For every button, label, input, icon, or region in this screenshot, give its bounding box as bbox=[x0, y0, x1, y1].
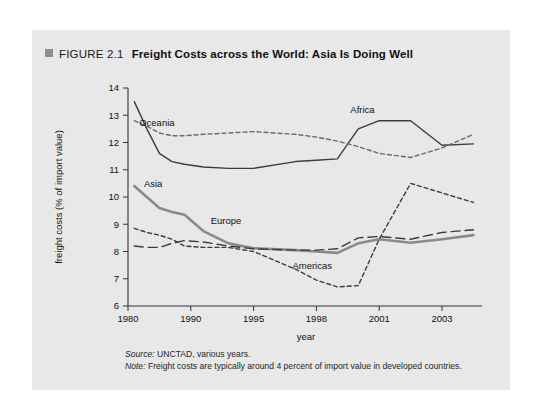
figure-card: FIGURE 2.1 Freight Costs across the Worl… bbox=[32, 30, 510, 390]
series-line-americas bbox=[134, 183, 473, 287]
series-line-africa bbox=[134, 102, 473, 169]
svg-text:2003: 2003 bbox=[431, 313, 452, 324]
figure-header: FIGURE 2.1 Freight Costs across the Worl… bbox=[45, 48, 413, 60]
note-text: Freight costs are typically around 4 per… bbox=[146, 361, 462, 371]
svg-text:1995: 1995 bbox=[243, 313, 264, 324]
series-line-oceania bbox=[134, 121, 473, 158]
chart-axes bbox=[128, 88, 482, 306]
series-inline-labels: AfricaOceaniaAsiaEuropeAmericas bbox=[139, 104, 375, 272]
svg-text:1980: 1980 bbox=[117, 313, 138, 324]
note-label: Note: bbox=[125, 361, 146, 371]
svg-text:10: 10 bbox=[108, 191, 119, 202]
note-line: Note: Freight costs are typically around… bbox=[125, 360, 505, 372]
svg-text:7: 7 bbox=[114, 273, 119, 284]
series-label-africa: Africa bbox=[350, 104, 375, 115]
svg-text:11: 11 bbox=[109, 164, 119, 175]
source-text: UNCTAD, various years. bbox=[155, 349, 251, 359]
svg-text:12: 12 bbox=[108, 137, 119, 148]
svg-text:6: 6 bbox=[114, 300, 119, 311]
series-label-europe: Europe bbox=[211, 215, 242, 226]
figure-title: Freight Costs across the World: Asia Is … bbox=[132, 48, 413, 60]
svg-text:1998: 1998 bbox=[306, 313, 327, 324]
x-axis-ticks: 198019901995199820012003 bbox=[117, 306, 452, 324]
y-axis-title: freight costs (% of import value) bbox=[53, 130, 64, 264]
svg-text:9: 9 bbox=[114, 219, 119, 230]
svg-text:1990: 1990 bbox=[180, 313, 201, 324]
svg-text:2001: 2001 bbox=[369, 313, 390, 324]
svg-text:13: 13 bbox=[108, 110, 119, 121]
source-line: Source: UNCTAD, various years. bbox=[125, 348, 505, 360]
freight-costs-line-chart: 67891011121314 198019901995199820012003 … bbox=[32, 74, 510, 344]
page-root: FIGURE 2.1 Freight Costs across the Worl… bbox=[0, 0, 540, 419]
series-label-americas: Americas bbox=[292, 260, 332, 271]
figure-notes: Source: UNCTAD, various years. Note: Fre… bbox=[125, 348, 505, 373]
x-axis-title: year bbox=[297, 331, 315, 342]
series-line-asia bbox=[134, 186, 473, 253]
y-axis-ticks: 67891011121314 bbox=[108, 82, 128, 311]
chart-plot-area: 67891011121314 198019901995199820012003 … bbox=[32, 74, 510, 344]
source-label: Source: bbox=[125, 349, 155, 359]
svg-text:8: 8 bbox=[114, 246, 119, 257]
svg-text:14: 14 bbox=[108, 82, 119, 93]
figure-label: FIGURE 2.1 bbox=[59, 48, 124, 60]
series-line-europe bbox=[134, 230, 473, 250]
series-label-asia: Asia bbox=[144, 178, 163, 189]
series-label-oceania: Oceania bbox=[139, 117, 175, 128]
chart-series-group bbox=[134, 102, 473, 287]
figure-marker-icon bbox=[45, 49, 53, 57]
